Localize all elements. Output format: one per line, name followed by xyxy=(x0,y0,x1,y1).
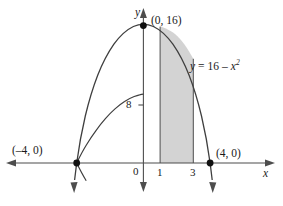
origin-label: 0 xyxy=(133,166,139,177)
equation-minus: – xyxy=(222,60,228,72)
y-tick-label-8: 8 xyxy=(126,99,132,110)
parabola-right-end-arrow xyxy=(209,182,216,193)
x-axis-label: x xyxy=(263,168,268,180)
plot-canvas xyxy=(0,0,283,206)
parabola-left-end-arrow xyxy=(71,182,78,193)
equation-exponent: 2 xyxy=(236,58,240,67)
x-tick-label-3: 3 xyxy=(190,167,196,178)
x-axis-right-arrow xyxy=(265,159,275,166)
right-root-point xyxy=(207,160,214,167)
x-tick-label-1: 1 xyxy=(157,167,163,178)
y-axis-down-arrow xyxy=(140,182,147,192)
equation-equals: = xyxy=(198,60,205,72)
parabola-figure: y x (0, 16) (–4, 0) (4, 0) 8 0 1 3 y=16–… xyxy=(0,0,283,206)
right-root-label: (4, 0) xyxy=(216,148,241,160)
y-axis-up-arrow xyxy=(140,8,147,18)
vertex-label: (0, 16) xyxy=(151,15,182,27)
equation-lhs: y xyxy=(190,60,195,72)
vertex-point xyxy=(140,22,147,29)
x-axis-left-arrow xyxy=(6,159,16,166)
left-root-point xyxy=(73,160,80,167)
equation-label: y=16–x2 xyxy=(190,59,240,72)
y-axis-label: y xyxy=(135,7,140,19)
left-root-label: (–4, 0) xyxy=(12,145,43,157)
shaded-area xyxy=(160,27,193,163)
equation-constant: 16 xyxy=(208,60,220,72)
